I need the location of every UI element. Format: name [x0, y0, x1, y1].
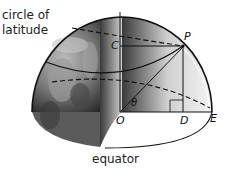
point-O-label: O [116, 115, 125, 127]
point-D-label: D [180, 115, 188, 127]
equator-label: equator [92, 152, 139, 166]
cutaway-interior [100, 17, 212, 148]
circle-of-latitude-label-line2: latitude [2, 23, 48, 37]
angle-theta-label: θ [131, 97, 137, 109]
circle-of-latitude-label-line1: circle of [2, 8, 49, 22]
point-P-dot [181, 44, 184, 47]
point-C-label: C [111, 40, 119, 52]
point-E-label: E [210, 113, 217, 125]
point-P-label: P [184, 31, 191, 43]
